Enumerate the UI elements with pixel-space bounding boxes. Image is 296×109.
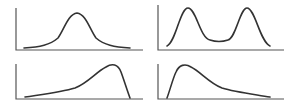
panel-bimodal-curve bbox=[167, 8, 270, 46]
panel-right-skewed-curve bbox=[167, 65, 270, 98]
distribution-shapes-figure bbox=[0, 0, 296, 109]
panel-normal-curve bbox=[24, 13, 130, 48]
panel-right-skewed bbox=[158, 64, 284, 99]
panel-left-skewed-curve bbox=[25, 65, 130, 98]
panel-bimodal bbox=[158, 5, 284, 50]
charts-canvas bbox=[0, 0, 296, 109]
panel-left-skewed bbox=[16, 64, 143, 99]
panel-normal bbox=[16, 8, 143, 50]
